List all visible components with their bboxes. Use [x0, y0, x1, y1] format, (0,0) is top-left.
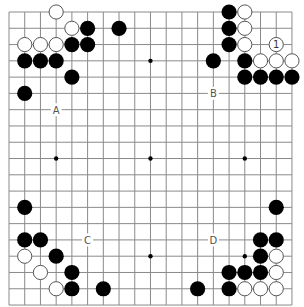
black-stone[interactable]	[284, 70, 299, 85]
black-stone[interactable]	[269, 70, 284, 85]
black-stone[interactable]	[33, 232, 48, 247]
black-stone[interactable]	[17, 232, 32, 247]
white-stone[interactable]	[269, 282, 283, 296]
black-stone[interactable]	[237, 53, 252, 68]
white-stone[interactable]	[18, 249, 32, 263]
white-stone[interactable]	[269, 265, 283, 279]
black-stone[interactable]	[269, 232, 284, 247]
black-stone[interactable]	[206, 53, 221, 68]
white-stone[interactable]	[269, 54, 283, 68]
black-stone[interactable]	[64, 70, 79, 85]
black-stone[interactable]	[221, 21, 236, 36]
white-stone[interactable]	[238, 37, 252, 51]
point-label-d[interactable]: D	[210, 235, 218, 246]
black-stone[interactable]	[253, 265, 268, 280]
white-stone[interactable]	[33, 265, 47, 279]
white-stone[interactable]	[49, 37, 63, 51]
black-stone[interactable]	[49, 249, 64, 264]
white-stone[interactable]	[49, 282, 63, 296]
star-point	[148, 254, 152, 258]
black-stone[interactable]	[253, 232, 268, 247]
white-stone[interactable]	[285, 54, 299, 68]
white-stone[interactable]	[49, 5, 63, 19]
black-stone[interactable]	[221, 265, 236, 280]
white-stone[interactable]	[269, 249, 283, 263]
black-stone[interactable]	[237, 265, 252, 280]
black-stone[interactable]	[17, 53, 32, 68]
white-stone[interactable]	[253, 54, 267, 68]
black-stone[interactable]	[253, 70, 268, 85]
black-stone[interactable]	[17, 200, 32, 215]
black-stone[interactable]	[33, 53, 48, 68]
white-stone[interactable]	[33, 37, 47, 51]
white-stone[interactable]	[253, 282, 267, 296]
white-stone[interactable]	[238, 21, 252, 35]
stones-layer: 1	[17, 4, 299, 296]
white-stone[interactable]	[18, 37, 32, 51]
black-stone[interactable]	[221, 281, 236, 296]
black-stone[interactable]	[80, 21, 95, 36]
star-point	[54, 156, 58, 160]
black-stone[interactable]	[80, 37, 95, 52]
black-stone[interactable]	[64, 265, 79, 280]
star-point	[148, 156, 152, 160]
white-stone[interactable]	[238, 282, 252, 296]
black-stone[interactable]	[49, 53, 64, 68]
point-label-a[interactable]: A	[53, 105, 60, 116]
star-point	[148, 59, 152, 63]
move-number: 1	[273, 39, 279, 50]
black-stone[interactable]	[221, 4, 236, 19]
black-stone[interactable]	[17, 86, 32, 101]
star-point	[243, 156, 247, 160]
black-stone[interactable]	[269, 200, 284, 215]
go-board[interactable]: ABCD 1	[0, 0, 304, 307]
white-stone[interactable]	[65, 21, 79, 35]
black-stone[interactable]	[64, 281, 79, 296]
black-stone[interactable]	[237, 70, 252, 85]
black-stone[interactable]	[111, 21, 126, 36]
black-stone[interactable]	[96, 281, 111, 296]
black-stone[interactable]	[253, 249, 268, 264]
black-stone[interactable]	[64, 37, 79, 52]
point-label-c[interactable]: C	[84, 235, 91, 246]
black-stone[interactable]	[221, 37, 236, 52]
point-label-b[interactable]: B	[210, 88, 217, 99]
black-stone[interactable]	[190, 281, 205, 296]
star-point	[243, 254, 247, 258]
white-stone[interactable]	[238, 5, 252, 19]
